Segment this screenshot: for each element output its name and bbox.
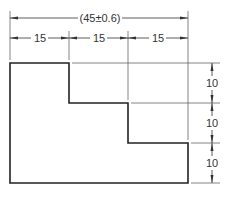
overall-dimension-label: (45±0.6) [80, 12, 121, 24]
stepped-part-outline [10, 63, 188, 183]
extension-lines-vertical [10, 11, 188, 140]
extension-lines-horizontal [72, 63, 220, 183]
vertical-label-2: 10 [206, 117, 218, 129]
dimension-label-2: 15 [93, 32, 105, 44]
dimension-label-3: 15 [152, 32, 164, 44]
technical-drawing: (45±0.6) 15 15 15 10 10 10 [0, 0, 229, 197]
dimension-label-1: 15 [34, 32, 46, 44]
vertical-label-1: 10 [206, 77, 218, 89]
vertical-label-3: 10 [206, 157, 218, 169]
